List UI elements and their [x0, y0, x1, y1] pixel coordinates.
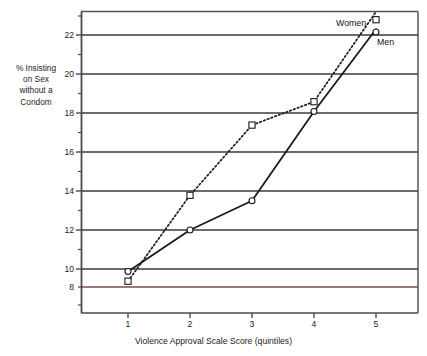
plot-area — [0, 0, 427, 356]
x-axis-ticks — [128, 313, 376, 318]
plot-frame — [81, 12, 418, 314]
chart-figure: % Insisting on Sex without a Condom 22 2… — [0, 0, 427, 356]
gridlines — [81, 35, 418, 287]
series-women — [125, 12, 379, 285]
series-women-markers — [125, 17, 379, 285]
